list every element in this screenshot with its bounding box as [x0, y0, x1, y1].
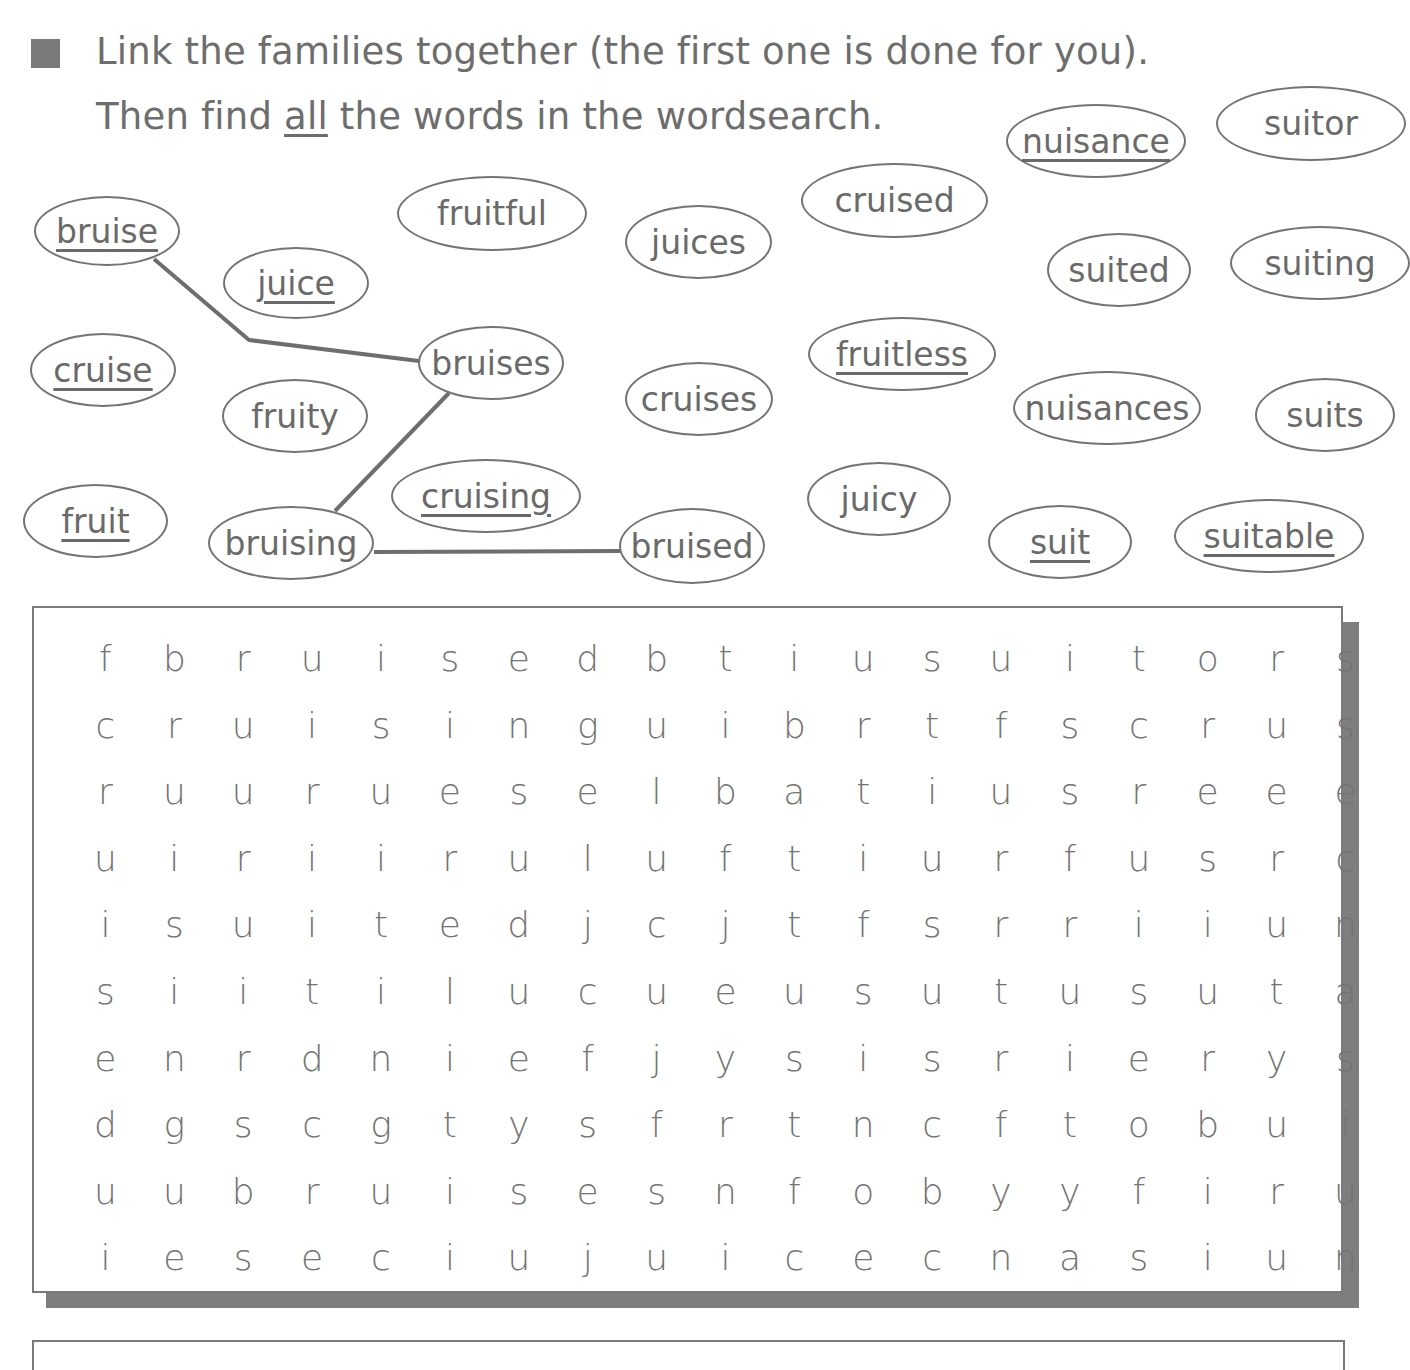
grid-cell[interactable]: u	[209, 693, 278, 760]
grid-cell[interactable]: u	[1035, 959, 1104, 1026]
grid-cell[interactable]: b	[691, 759, 760, 826]
word-oval-cruised[interactable]: cruised	[801, 163, 988, 238]
grid-cell[interactable]: i	[1035, 626, 1104, 693]
grid-cell[interactable]: e	[140, 1225, 209, 1292]
grid-cell[interactable]: e	[71, 1026, 140, 1093]
word-oval-suited[interactable]: suited	[1047, 233, 1191, 307]
grid-cell[interactable]: r	[1242, 626, 1311, 693]
word-oval-fruity[interactable]: fruity	[222, 379, 368, 453]
grid-cell[interactable]: s	[1035, 693, 1104, 760]
grid-cell[interactable]: u	[1311, 1159, 1380, 1226]
word-oval-suitable[interactable]: suitable	[1174, 499, 1364, 573]
grid-cell[interactable]: t	[1035, 1092, 1104, 1159]
grid-cell[interactable]: r	[967, 1026, 1036, 1093]
grid-cell[interactable]: u	[622, 826, 691, 893]
grid-cell[interactable]: r	[829, 693, 898, 760]
grid-cell[interactable]: e	[829, 1225, 898, 1292]
word-oval-suiting[interactable]: suiting	[1230, 226, 1410, 300]
grid-cell[interactable]: s	[622, 1159, 691, 1226]
grid-cell[interactable]: i	[898, 759, 967, 826]
grid-cell[interactable]: s	[484, 1159, 553, 1226]
grid-cell[interactable]: f	[967, 693, 1036, 760]
grid-cell[interactable]: i	[415, 693, 484, 760]
grid-cell[interactable]: i	[1173, 1225, 1242, 1292]
grid-cell[interactable]: f	[760, 1159, 829, 1226]
grid-cell[interactable]: c	[898, 1092, 967, 1159]
grid-cell[interactable]: t	[1104, 626, 1173, 693]
grid-cell[interactable]: i	[415, 1026, 484, 1093]
word-oval-bruise[interactable]: bruise	[34, 196, 180, 266]
grid-cell[interactable]: c	[1311, 826, 1380, 893]
grid-cell[interactable]: d	[71, 1092, 140, 1159]
grid-cell[interactable]: e	[1104, 1026, 1173, 1093]
grid-cell[interactable]: y	[1242, 1026, 1311, 1093]
grid-cell[interactable]: u	[209, 892, 278, 959]
grid-cell[interactable]: t	[760, 892, 829, 959]
word-oval-cruising[interactable]: cruising	[391, 459, 581, 533]
grid-cell[interactable]: u	[1104, 826, 1173, 893]
grid-cell[interactable]: u	[898, 959, 967, 1026]
grid-cell[interactable]: i	[829, 1026, 898, 1093]
grid-cell[interactable]: u	[622, 693, 691, 760]
grid-cell[interactable]: f	[71, 626, 140, 693]
word-oval-fruit[interactable]: fruit	[23, 484, 168, 558]
grid-cell[interactable]: u	[829, 626, 898, 693]
grid-cell[interactable]: i	[1035, 1026, 1104, 1093]
grid-cell[interactable]: t	[1242, 959, 1311, 1026]
grid-cell[interactable]: i	[691, 1225, 760, 1292]
word-oval-bruising[interactable]: bruising	[208, 506, 374, 580]
grid-cell[interactable]: n	[829, 1092, 898, 1159]
grid-cell[interactable]: u	[347, 1159, 416, 1226]
grid-cell[interactable]: t	[415, 1092, 484, 1159]
grid-cell[interactable]: b	[898, 1159, 967, 1226]
grid-cell[interactable]: u	[967, 759, 1036, 826]
word-oval-juicy[interactable]: juicy	[807, 462, 951, 536]
grid-cell[interactable]: c	[622, 892, 691, 959]
grid-cell[interactable]: s	[1035, 759, 1104, 826]
grid-cell[interactable]: n	[140, 1026, 209, 1093]
grid-cell[interactable]: t	[760, 1092, 829, 1159]
grid-cell[interactable]: u	[71, 826, 140, 893]
grid-cell[interactable]: e	[278, 1225, 347, 1292]
grid-cell[interactable]: t	[829, 759, 898, 826]
grid-cell[interactable]: n	[1311, 892, 1380, 959]
grid-cell[interactable]: e	[1242, 759, 1311, 826]
word-oval-bruised[interactable]: bruised	[619, 508, 765, 584]
grid-cell[interactable]: t	[347, 892, 416, 959]
grid-cell[interactable]: r	[140, 693, 209, 760]
grid-cell[interactable]: g	[140, 1092, 209, 1159]
word-oval-fruitless[interactable]: fruitless	[808, 317, 996, 391]
grid-cell[interactable]: u	[484, 1225, 553, 1292]
grid-cell[interactable]: u	[622, 1225, 691, 1292]
grid-cell[interactable]: c	[278, 1092, 347, 1159]
word-oval-juices[interactable]: juices	[625, 205, 772, 279]
grid-cell[interactable]: i	[415, 1159, 484, 1226]
grid-cell[interactable]: r	[415, 826, 484, 893]
grid-cell[interactable]: s	[71, 959, 140, 1026]
grid-cell[interactable]: e	[553, 759, 622, 826]
word-oval-suits[interactable]: suits	[1255, 378, 1395, 452]
grid-cell[interactable]: i	[1311, 1092, 1380, 1159]
grid-cell[interactable]: i	[140, 959, 209, 1026]
grid-cell[interactable]: i	[71, 892, 140, 959]
grid-cell[interactable]: s	[1311, 693, 1380, 760]
word-oval-nuisances[interactable]: nuisances	[1013, 371, 1201, 445]
grid-cell[interactable]: i	[209, 959, 278, 1026]
grid-cell[interactable]: e	[691, 959, 760, 1026]
grid-cell[interactable]: r	[209, 826, 278, 893]
grid-cell[interactable]: i	[1104, 892, 1173, 959]
grid-cell[interactable]: r	[278, 759, 347, 826]
grid-cell[interactable]: a	[760, 759, 829, 826]
grid-cell[interactable]: c	[71, 693, 140, 760]
grid-cell[interactable]: j	[553, 892, 622, 959]
grid-cell[interactable]: i	[1173, 1159, 1242, 1226]
grid-cell[interactable]: y	[1035, 1159, 1104, 1226]
grid-cell[interactable]: f	[1035, 826, 1104, 893]
grid-cell[interactable]: d	[484, 892, 553, 959]
grid-cell[interactable]: j	[553, 1225, 622, 1292]
grid-cell[interactable]: e	[1173, 759, 1242, 826]
grid-cell[interactable]: r	[1242, 826, 1311, 893]
grid-cell[interactable]: b	[760, 693, 829, 760]
grid-cell[interactable]: s	[898, 626, 967, 693]
grid-cell[interactable]: b	[209, 1159, 278, 1226]
